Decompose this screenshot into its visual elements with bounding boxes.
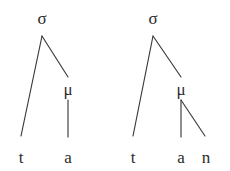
mu-node-label: μ (176, 80, 185, 99)
branch-sigma-to-onset (21, 36, 42, 136)
segment-label-onset: t (19, 148, 24, 167)
tree-heavy-syllable-tan: σ μ t a n (131, 9, 211, 167)
branch-sigma-to-mora (153, 36, 181, 77)
tree-canvas: σ μ t a σ μ t a n (0, 0, 230, 171)
segment-label-nucleus: a (64, 148, 72, 167)
branch-mora-to-coda (181, 100, 205, 136)
segment-label-coda: n (202, 148, 211, 167)
syllable-tree-diagram: σ μ t a σ μ t a n (0, 0, 230, 171)
sigma-node-label: σ (37, 9, 46, 28)
sigma-node-label: σ (148, 9, 157, 28)
branch-sigma-to-onset (133, 36, 153, 136)
mu-node-label: μ (63, 80, 72, 99)
branch-sigma-to-mora (42, 36, 68, 77)
segment-label-onset: t (131, 148, 136, 167)
tree-light-syllable-ta: σ μ t a (19, 9, 73, 167)
segment-label-nucleus: a (177, 148, 185, 167)
